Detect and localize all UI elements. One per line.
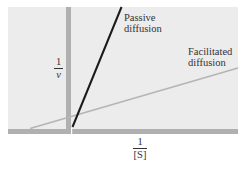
passive-diffusion-label: Passive diffusion: [124, 12, 162, 34]
facilitated-label-line-1: Facilitated: [188, 46, 232, 57]
x-axis-label-numerator: 1: [137, 137, 142, 147]
y-axis: [66, 7, 71, 129]
y-axis-label-denominator: v: [56, 70, 61, 80]
x-axis-label: 1 [S]: [133, 137, 147, 160]
x-axis-label-denominator: [S]: [134, 150, 147, 160]
y-axis-label: 1 v: [54, 57, 63, 80]
y-axis-label-numerator: 1: [56, 57, 61, 67]
axis-gap: [71, 128, 72, 135]
lineweaver-burk-plot: [0, 0, 246, 169]
plot-background: [8, 7, 238, 129]
facilitated-diffusion-label: Facilitated diffusion: [188, 46, 232, 68]
x-axis: [8, 129, 238, 134]
passive-label-line-1: Passive: [124, 12, 162, 23]
facilitated-label-line-2: diffusion: [188, 57, 232, 68]
passive-label-line-2: diffusion: [124, 23, 162, 34]
